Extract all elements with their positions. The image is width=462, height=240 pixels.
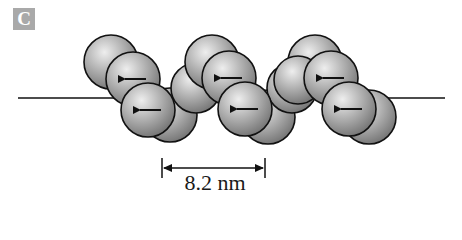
measure-arrowhead-icon bbox=[255, 164, 264, 172]
actin-subunits bbox=[84, 35, 396, 144]
repeat-distance-label: 8.2 nm bbox=[175, 170, 255, 196]
measure-arrowhead-icon bbox=[163, 164, 172, 172]
